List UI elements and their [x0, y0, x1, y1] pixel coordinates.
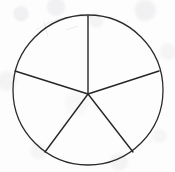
ghost-smudge-mark — [66, 26, 78, 30]
radius-upper-right — [88, 71, 159, 94]
figure-canvas: Circle divided into five sectors — [0, 0, 175, 172]
radius-upper-left — [15, 71, 88, 94]
radius-lower-left — [45, 94, 88, 152]
radius-lower-right — [88, 94, 133, 152]
sector-divider-group — [15, 16, 159, 152]
pie-sectors-diagram: Circle divided into five sectors — [0, 0, 175, 172]
